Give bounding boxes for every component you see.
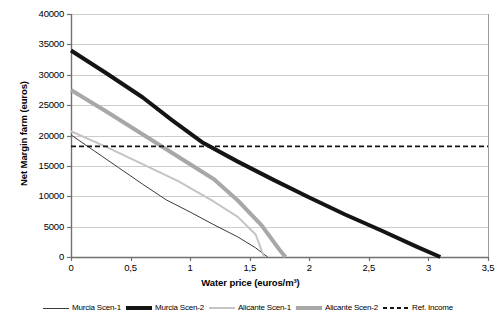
legend-swatch-murcia-scen-2	[126, 303, 152, 313]
legend-item-murcia-scen-2[interactable]: Murcia Scen-2	[126, 303, 204, 313]
legend-label-ref-income: Ref. Income	[412, 303, 453, 313]
legend-label-murcia-scen-1: Murcia Scen-1	[72, 303, 121, 313]
legend-swatch-ref-income	[383, 303, 409, 313]
y-tick-label: 25000	[12, 99, 64, 110]
x-tick-label: 0	[51, 262, 91, 273]
x-tick-label: 2,5	[349, 262, 389, 273]
legend-item-alicante-scen-1[interactable]: Alicante Scen-1	[209, 303, 291, 313]
x-tick-label: 3	[408, 262, 448, 273]
y-tick-label: 20000	[12, 130, 64, 141]
chart-legend: Murcia Scen-1Murcia Scen-2Alicante Scen-…	[0, 303, 501, 313]
y-tick-label: 10000	[12, 190, 64, 201]
chart-container: Net Margin farm (euros) 0500010000150002…	[0, 0, 501, 335]
y-tick-label: 35000	[12, 38, 64, 49]
x-tick-label: 1,5	[230, 262, 270, 273]
legend-item-murcia-scen-1[interactable]: Murcia Scen-1	[43, 303, 121, 313]
x-tick-label: 3,5	[468, 262, 501, 273]
y-tick-label: 15000	[12, 160, 64, 171]
legend-label-murcia-scen-2: Murcia Scen-2	[155, 303, 204, 313]
legend-item-ref-income[interactable]: Ref. Income	[383, 303, 453, 313]
x-tick-label: 2	[289, 262, 329, 273]
legend-label-alicante-scen-1: Alicante Scen-1	[238, 303, 291, 313]
y-tick-label: 40000	[12, 8, 64, 19]
x-axis-title: Water price (euros/m³)	[0, 277, 501, 288]
y-tick-label: 0	[12, 251, 64, 262]
x-tick-label: 1	[170, 262, 210, 273]
legend-swatch-murcia-scen-1	[43, 303, 69, 313]
legend-swatch-alicante-scen-2	[296, 303, 322, 313]
series-line-murcia-scen-2	[71, 50, 440, 257]
legend-swatch-alicante-scen-1	[209, 303, 235, 313]
y-tick-label: 30000	[12, 69, 64, 80]
y-tick-label: 5000	[12, 221, 64, 232]
legend-item-alicante-scen-2[interactable]: Alicante Scen-2	[296, 303, 378, 313]
legend-label-alicante-scen-2: Alicante Scen-2	[325, 303, 378, 313]
x-tick-label: 0,5	[111, 262, 151, 273]
